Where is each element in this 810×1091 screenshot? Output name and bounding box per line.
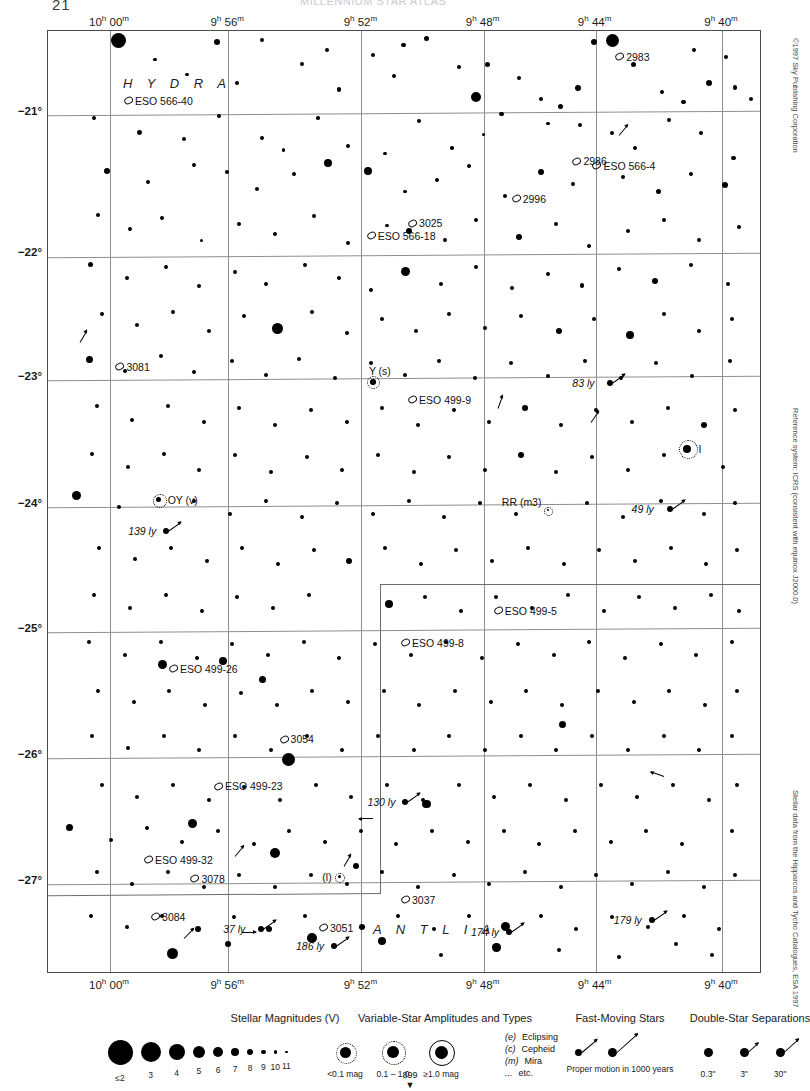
distance-label: 83 ly [572,377,594,389]
star-point [539,97,543,101]
star-point [597,548,601,552]
star-point [632,700,636,704]
constellation-boundary-left [380,584,381,894]
star-point [369,288,373,292]
star-point [302,640,306,644]
star-point [697,748,701,752]
star-point [252,842,256,846]
star-point [730,317,734,321]
star-point [606,34,619,47]
star-point [137,130,142,135]
star-point [697,329,701,333]
star-chart-plot[interactable]: ESO 566-4029832986ESO 566-429963025ESO 5… [47,30,761,973]
star-point [335,501,339,505]
star-point [180,840,184,844]
galaxy-symbol [493,606,504,616]
star-point [735,548,739,552]
star-point [132,700,136,704]
variable-type-name-0: Eclipsing [522,1032,558,1042]
star-point [730,829,734,833]
star-point [635,795,639,799]
star-point [662,312,666,316]
star-point [111,33,126,48]
galaxy-label: 2996 [523,193,546,205]
star-point [560,703,564,707]
star-point [95,404,99,408]
star-point [728,359,732,363]
star-point [92,593,96,597]
star-point [583,359,587,363]
star-point [233,734,237,738]
star-point [86,356,93,363]
star-point [192,370,196,374]
star-point [626,229,630,233]
variable-dot-1 [387,1046,399,1058]
star-point [517,76,521,80]
star-point [701,422,707,428]
dec-tick-label-1: −22° [0,246,42,258]
magnitude-dot-3 [193,1046,206,1059]
star-point [188,819,197,828]
star-point [97,546,101,550]
variable-dot-0 [340,1047,351,1058]
star-point [412,470,416,474]
ra-tick-label-bottom-2: 9h 52m [320,977,400,991]
dec-tick-label-0: −21° [0,105,42,117]
star-point [674,942,678,946]
star-point [324,159,332,167]
star-point [345,882,349,886]
star-point [435,178,439,182]
star-point [380,317,384,321]
ra-tick-label-top-4: 9h 44m [555,14,635,28]
constellation-name: A N T L I A [373,922,496,937]
star-point [626,331,634,339]
galaxy-symbol [571,156,582,166]
star-point [510,286,514,290]
magnitude-dot-2 [169,1044,185,1060]
star-point [735,783,739,787]
star-point [680,842,684,846]
star-point [345,420,349,424]
star-point [197,284,201,288]
star-point [66,824,73,831]
star-point [499,112,504,117]
star-point [126,746,130,750]
constellation-boundary-bottom [48,893,381,897]
fast-moving-star-dot-0 [575,1049,582,1056]
star-point [726,282,730,286]
fast-moving-star-dot-1 [608,1048,617,1057]
star-point [633,559,637,563]
star-point [264,373,268,377]
star-point [483,326,487,330]
star-point [380,406,384,410]
star-point [559,423,563,427]
star-point [164,593,168,597]
star-point [492,795,496,799]
star-point [587,244,591,248]
star-point [346,144,350,148]
star-point [724,55,728,59]
star-point [195,656,199,660]
star-point [162,734,166,738]
star-point [271,606,275,610]
star-point [72,491,81,500]
star-point [749,97,753,101]
star-point [273,232,277,236]
star-point [523,870,527,874]
star-point [337,656,341,660]
star-point [401,43,406,48]
star-point [437,359,441,363]
star-point [264,499,268,503]
star-point [546,122,550,126]
star-point [287,829,291,833]
star-point [145,826,149,830]
star-point [337,87,341,91]
named-star-label: OY (v) [168,494,198,506]
star-point [135,323,139,327]
star-point [125,276,129,280]
star-point [126,465,130,469]
star-point [192,163,196,167]
star-point [417,703,421,707]
star-point [609,840,613,844]
galaxy-symbol [279,734,290,744]
